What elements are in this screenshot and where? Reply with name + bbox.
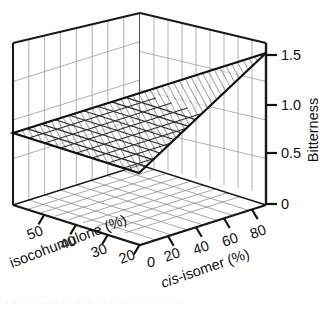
x-tick-label-80: 80 — [248, 221, 268, 241]
x-tick-label-20: 20 — [162, 244, 182, 264]
z-tick-label-3: 0.5 — [281, 145, 301, 161]
plot-canvas: 1.5 1.0 0.5 0 Bitterness 50 40 30 20 0 i… — [0, 0, 327, 311]
caption-fragment: · ·· ·· ··· ·· ··· ···· ··· ·· ····· ·· … — [6, 299, 321, 310]
y-tick-label-30: 30 — [89, 240, 110, 261]
z-axis-title: Bitterness — [305, 98, 321, 162]
origin-tick-label: 0 — [147, 254, 155, 270]
z-axis: 1.5 1.0 0.5 0 Bitterness — [266, 47, 321, 212]
z-axis-ticks — [266, 55, 277, 204]
x-axis-title-rest: -isomer (%) — [176, 246, 252, 286]
y-tick-label-50: 50 — [25, 222, 46, 243]
y-tick-label-20: 20 — [117, 246, 138, 267]
x-tick-label-60: 60 — [220, 229, 240, 249]
z-tick-label-4: 0 — [281, 196, 289, 212]
x-tick-label-40: 40 — [191, 237, 211, 257]
figure-3d-surface-plot: 1.5 1.0 0.5 0 Bitterness 50 40 30 20 0 i… — [0, 0, 327, 311]
z-tick-label-1: 1.5 — [281, 47, 301, 63]
z-tick-label-2: 1.0 — [281, 97, 301, 113]
